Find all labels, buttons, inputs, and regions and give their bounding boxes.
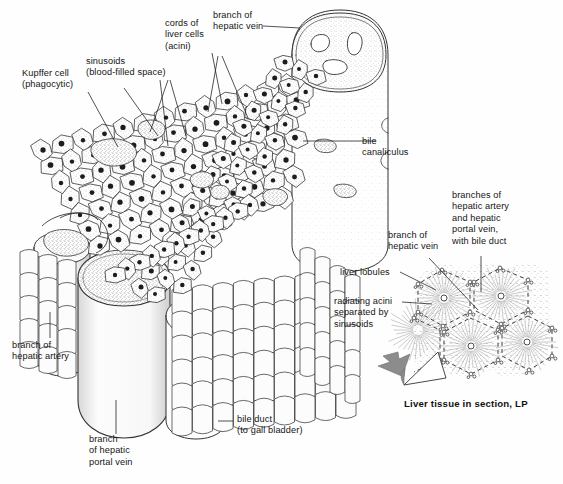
- label-branch-of-hepatic-artery: branch of hepatic artery: [12, 340, 69, 363]
- label-liver-lobules: liver lobules: [340, 267, 390, 278]
- label-cords-of-liver-cells: cords of liver cells (acini): [165, 18, 204, 52]
- label-bile-canaliculus: bile canaliculus: [362, 136, 409, 159]
- label-branch-of-hepatic-portal-vein: branch of hepatic portal vein: [89, 434, 133, 468]
- label-sinusoids: sinusoids (blood-filled space): [86, 56, 166, 79]
- label-bile-duct: bile duct (to gall bladder): [237, 414, 303, 437]
- label-branch-of-hepatic-vein-main: branch of hepatic vein: [213, 10, 263, 33]
- label-branch-of-hepatic-vein-inset: branch of hepatic vein: [388, 230, 438, 253]
- label-kupffer-cell: Kupffer cell (phagocytic): [22, 68, 73, 91]
- inset-caption: Liver tissue in section, LP: [404, 398, 528, 409]
- label-branches-hepatic-artery-portal-vein: branches of hepatic artery and hepatic p…: [452, 190, 509, 247]
- figure-canvas: Kupffer cell (phagocytic) sinusoids (blo…: [0, 0, 563, 484]
- label-radiating-acini: radiating acini separated by sinusoids: [334, 296, 392, 330]
